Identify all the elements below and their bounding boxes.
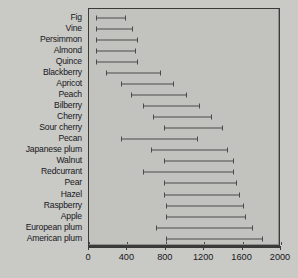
range-bar [164,194,239,195]
range-bar-end-cap [243,203,244,208]
range-bar-end-cap [227,148,228,153]
range-bar-end-cap [233,170,234,175]
range-bar-start-cap [143,170,144,175]
range-bar-end-cap [233,159,234,164]
range-bar-end-cap [125,15,126,20]
range-bar-end-cap [137,37,138,42]
category-label: American plum [27,233,82,242]
range-bar [131,95,186,96]
range-chart-figure: FigVinePersimmonAlmondQuinceBlackberryAp… [0,0,298,278]
x-axis-line [88,246,280,248]
range-bar-end-cap [132,26,133,31]
range-bar-start-cap [96,15,97,20]
range-bar-end-cap [173,82,174,87]
range-bar-end-cap [137,60,138,65]
category-label: Persimmon [40,34,82,43]
category-label: Pecan [58,134,82,143]
category-label: Peach [58,90,82,99]
range-bar [121,139,197,140]
range-bar-end-cap [245,214,246,219]
category-label: Fig [71,12,83,21]
range-bar [151,150,227,151]
range-bar-end-cap [222,126,223,131]
range-bar [166,216,245,217]
range-bar [164,128,223,129]
range-bar-start-cap [164,192,165,197]
category-label: European plum [26,222,82,231]
category-label: Apricot [56,79,82,88]
category-label: Bilberry [54,101,82,110]
range-bar [153,117,211,118]
range-bar-start-cap [164,181,165,186]
x-axis-tick-label: 1600 [231,252,251,262]
range-bar-start-cap [96,48,97,53]
category-label: Sour cherry [39,123,82,132]
range-bar-start-cap [166,203,167,208]
category-axis-labels: FigVinePersimmonAlmondQuinceBlackberryAp… [0,8,85,246]
range-bar-end-cap [197,137,198,142]
x-axis-tick [165,246,166,250]
range-bar [166,205,243,206]
category-label: Cherry [57,112,82,121]
range-bar [96,50,135,51]
x-axis-tick-inner [89,242,90,245]
range-bar-end-cap [262,236,263,241]
range-bar-start-cap [153,115,154,120]
range-bar-end-cap [252,225,253,230]
category-label: Japanese plum [26,145,82,154]
range-bar [106,73,160,74]
range-bar-start-cap [96,60,97,65]
x-axis-tick-inner [281,242,282,245]
x-axis-tick-inner [243,242,244,245]
x-axis-tick [280,246,281,250]
category-label: Blackberry [43,68,82,77]
category-label: Vine [66,23,82,32]
range-bar [156,227,252,228]
range-bar-start-cap [121,82,122,87]
x-axis-tick-inner [204,242,205,245]
range-bar-end-cap [236,181,237,186]
range-bar-start-cap [166,214,167,219]
x-axis-tick [88,246,89,250]
category-label: Pear [64,178,82,187]
range-bar-start-cap [131,93,132,98]
range-bar-start-cap [164,126,165,131]
x-axis-tick [203,246,204,250]
x-axis-tick-label: 2000 [270,252,290,262]
range-bar [143,172,233,173]
range-bar [166,238,262,239]
range-bar-end-cap [135,48,136,53]
range-bar-end-cap [211,115,212,120]
category-label: Hazel [61,189,82,198]
category-label: Apple [61,211,82,220]
category-label: Walnut [56,156,82,165]
range-bar-start-cap [96,37,97,42]
category-label: Raspberry [44,200,82,209]
range-bar [164,183,236,184]
range-bar-start-cap [96,26,97,31]
x-axis-tick [242,246,243,250]
x-axis-tick-label: 400 [119,252,134,262]
range-bar [143,106,200,107]
range-bar-start-cap [156,225,157,230]
range-bar-start-cap [106,71,107,76]
x-axis-tick-label: 1200 [193,252,213,262]
x-axis-tick [126,246,127,250]
range-bar [96,17,126,18]
range-bar-start-cap [166,236,167,241]
x-axis-tick-inner [127,242,128,245]
x-axis-tick-label: 0 [85,252,90,262]
range-bar-end-cap [160,71,161,76]
range-bar-start-cap [151,148,152,153]
range-bar-start-cap [164,159,165,164]
range-bar [96,62,137,63]
range-bar-end-cap [199,104,200,109]
range-bar-end-cap [186,93,187,98]
range-bar-start-cap [121,137,122,142]
range-bar-end-cap [239,192,240,197]
x-axis-tick-label: 800 [157,252,172,262]
category-label: Quince [56,57,82,66]
plot-frame [88,8,280,246]
range-bar [121,84,173,85]
plot-area [89,9,279,245]
